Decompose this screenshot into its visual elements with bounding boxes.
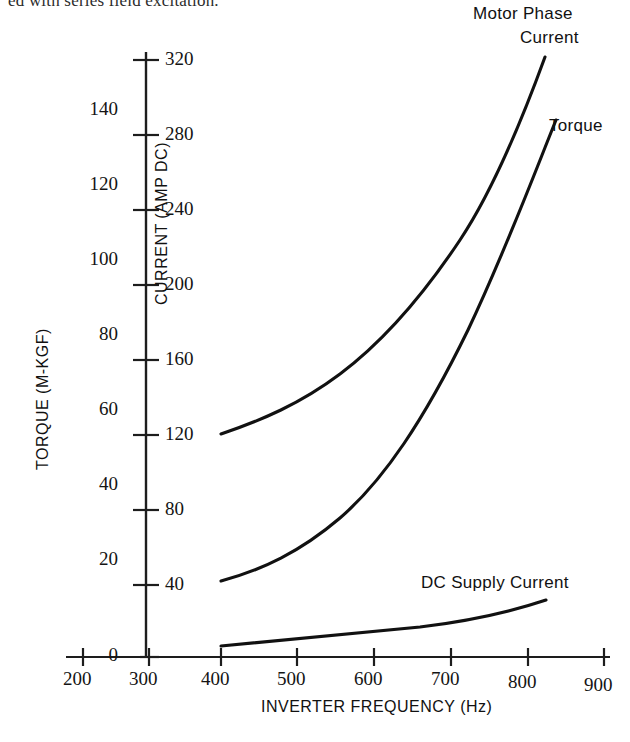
motor-phase-current-label-line2: Current: [520, 28, 579, 48]
series-line-torque: [221, 120, 556, 581]
y-left-tick-label-60: 60: [60, 398, 118, 420]
x-tick-label-400: 400: [201, 668, 230, 690]
series-line-dc-supply-current: [221, 600, 546, 646]
motor-phase-current-label-line1: Motor Phase: [473, 4, 573, 24]
x-tick-label-600: 600: [354, 668, 383, 690]
y-left-tick-label-20: 20: [60, 548, 118, 570]
x-axis-title: INVERTER FREQUENCY (Hz): [261, 698, 492, 716]
y-axis-title-left: TORQUE (M-KGF): [34, 328, 52, 470]
y-right-tick-label-120: 120: [165, 423, 194, 445]
x-tick-label-700: 700: [431, 668, 460, 690]
y-left-tick-label-120: 120: [60, 173, 118, 195]
y-left-tick-label-40: 40: [60, 473, 118, 495]
x-tick-label-500: 500: [277, 668, 306, 690]
y-left-tick-label-0: 0: [60, 644, 118, 666]
y-left-tick-label-80: 80: [60, 323, 118, 345]
y-left-tick-label-100: 100: [60, 248, 118, 270]
x-tick-label-800: 800: [508, 671, 537, 693]
y-right-tick-label-320: 320: [165, 48, 194, 70]
y-right-tick-label-40: 40: [165, 573, 184, 595]
x-tick-label-200: 200: [63, 668, 92, 690]
figure-container: ed with series field excitation.: [0, 0, 630, 742]
series-line-motor-phase-current: [221, 57, 545, 434]
dc-supply-current-label: DC Supply Current: [421, 573, 569, 593]
x-tick-label-900: 900: [584, 674, 613, 696]
x-tick-label-300: 300: [129, 668, 158, 690]
y-left-tick-label-140: 140: [60, 98, 118, 120]
y-right-tick-label-160: 160: [165, 348, 194, 370]
y-axis-title-right: CURRENT (AMP DC): [153, 142, 171, 305]
torque-label: Torque: [549, 116, 603, 136]
y-right-tick-label-80: 80: [165, 498, 184, 520]
